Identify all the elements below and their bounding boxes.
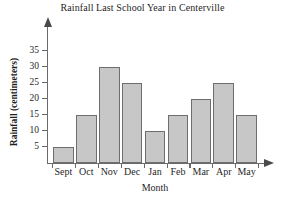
y-tick-label: 35	[17, 45, 39, 55]
x-axis-arrow-icon	[264, 159, 274, 167]
bar-sept	[53, 147, 74, 163]
bar-oct	[76, 115, 97, 163]
y-tick-label: 5	[17, 141, 39, 151]
y-axis-line	[47, 26, 48, 164]
y-tick-mark	[42, 82, 48, 83]
bar-may	[236, 115, 257, 163]
rainfall-bar-chart: Rainfall Last School Year in Centerville…	[0, 0, 285, 200]
plot-area: 5101520253035 SeptOctNovDecJanFebMarAprM…	[0, 0, 285, 200]
bar-dec	[122, 83, 143, 163]
y-tick-label: 25	[17, 77, 39, 87]
bar-jan	[145, 131, 166, 163]
bar-nov	[99, 67, 120, 163]
x-tick-label: May	[229, 166, 264, 177]
y-tick-mark	[42, 130, 48, 131]
y-tick-label: 20	[17, 93, 39, 103]
y-tick-mark	[42, 98, 48, 99]
bar-apr	[213, 83, 234, 163]
y-tick-mark	[42, 146, 48, 147]
y-tick-label: 15	[17, 109, 39, 119]
bar-mar	[191, 99, 212, 163]
y-tick-label: 10	[17, 125, 39, 135]
y-tick-mark	[42, 114, 48, 115]
y-tick-mark	[42, 66, 48, 67]
y-tick-label: 30	[17, 61, 39, 71]
y-axis-arrow-icon	[44, 17, 52, 27]
x-axis-label: Month	[52, 182, 258, 193]
y-tick-mark	[42, 50, 48, 51]
bar-feb	[168, 115, 189, 163]
x-axis-line	[47, 163, 265, 164]
